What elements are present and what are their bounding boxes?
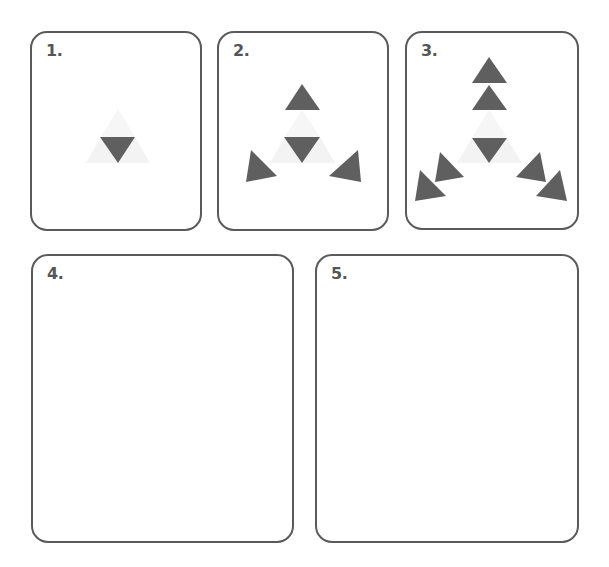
panel-1-triangles <box>86 109 150 163</box>
arm-left-triangle <box>246 150 277 182</box>
arm-top-outer-triangle <box>472 57 507 83</box>
panel-2-triangles <box>246 84 361 182</box>
faint-triangle-top <box>101 109 135 137</box>
faint-triangle-top <box>285 110 320 137</box>
triangle-artwork <box>0 0 609 567</box>
faint-triangle-top <box>472 110 507 138</box>
panel-3-triangles <box>415 57 567 201</box>
arm-left-inner-triangle <box>435 152 464 182</box>
arm-top-inner-triangle <box>472 85 507 110</box>
arm-top-triangle <box>285 84 320 110</box>
arm-right-inner-triangle <box>516 152 546 182</box>
arm-right-triangle <box>329 150 361 182</box>
